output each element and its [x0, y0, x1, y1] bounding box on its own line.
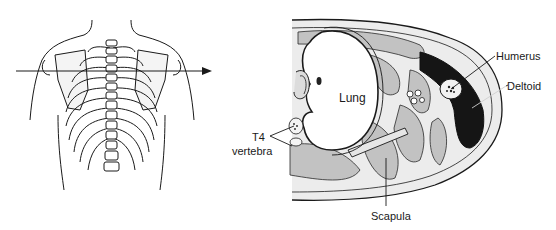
- label-t4: T4: [252, 131, 265, 143]
- t4-leader-line-lower: [270, 136, 292, 146]
- label-vertebra: vertebra: [232, 145, 272, 157]
- t4-vertebra: [289, 118, 303, 146]
- posterior-thorax-drawing: [0, 0, 280, 230]
- label-lung: Lung: [339, 92, 366, 104]
- label-deltoid: Deltoid: [507, 80, 541, 92]
- vertebral-column: [104, 40, 119, 171]
- label-humerus: Humerus: [496, 50, 541, 62]
- label-scapula: Scapula: [371, 210, 411, 222]
- posterior-thorax-view: [0, 0, 280, 230]
- transverse-section-view: [270, 0, 556, 230]
- transverse-section-drawing: [270, 0, 556, 230]
